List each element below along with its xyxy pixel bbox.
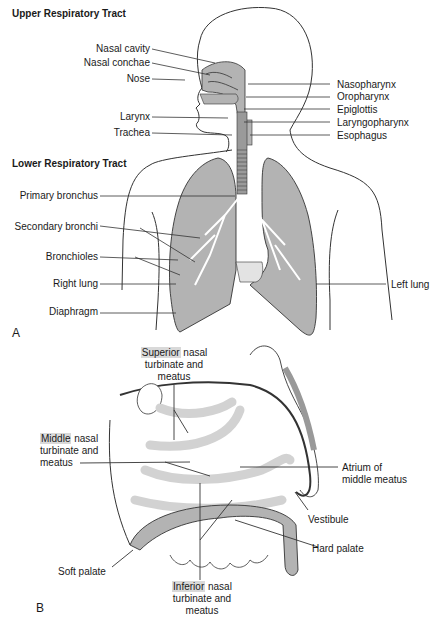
label-middle-turbinate: Middle nasal turbinate and meatus bbox=[40, 433, 98, 469]
inferior-highlight: Inferior bbox=[172, 581, 205, 592]
upper-respiratory-title: Upper Respiratory Tract bbox=[12, 8, 126, 19]
lower-respiratory-title: Lower Respiratory Tract bbox=[12, 158, 126, 169]
right-lung-shape bbox=[169, 158, 236, 332]
label-vestibule: Vestibule bbox=[308, 514, 349, 526]
label-atrium-middle-meatus: Atrium of middle meatus bbox=[342, 462, 407, 486]
label-nose: Nose bbox=[127, 73, 150, 85]
label-bronchioles: Bronchioles bbox=[46, 251, 98, 263]
middle-cavity-left bbox=[109, 420, 130, 545]
diaphragm-shape bbox=[236, 262, 263, 282]
trachea-shape bbox=[237, 112, 247, 194]
label-esophagus: Esophagus bbox=[337, 130, 387, 142]
label-nasal-conchae: Nasal conchae bbox=[84, 57, 150, 69]
label-larynx: Larynx bbox=[120, 111, 150, 123]
label-right-lung: Right lung bbox=[53, 278, 98, 290]
turbinates bbox=[135, 402, 290, 508]
label-soft-palate: Soft palate bbox=[58, 566, 106, 578]
label-secondary-bronchi: Secondary bronchi bbox=[15, 221, 98, 233]
superior-highlight: Superior bbox=[141, 347, 181, 358]
label-epiglottis: Epiglottis bbox=[337, 104, 378, 116]
label-hard-palate: Hard palate bbox=[312, 543, 364, 555]
label-superior-turbinate: Superior nasal turbinate and meatus bbox=[136, 347, 212, 383]
label-nasopharynx: Nasopharynx bbox=[337, 79, 396, 91]
panel-a-letter: A bbox=[12, 326, 20, 340]
label-diaphragm: Diaphragm bbox=[49, 306, 98, 318]
left-lung-shape bbox=[250, 158, 317, 335]
panel-b-letter: B bbox=[36, 601, 44, 615]
label-trachea: Trachea bbox=[114, 127, 150, 139]
label-laryngopharynx: Laryngopharynx bbox=[337, 117, 409, 129]
label-oropharynx: Oropharynx bbox=[337, 91, 389, 103]
label-nasal-cavity: Nasal cavity bbox=[96, 43, 150, 55]
label-primary-bronchus: Primary bronchus bbox=[20, 190, 98, 202]
label-left-lung: Left lung bbox=[391, 279, 429, 291]
teeth bbox=[170, 555, 268, 569]
middle-highlight: Middle bbox=[40, 433, 71, 444]
label-inferior-turbinate: Inferior nasal turbinate and meatus bbox=[164, 581, 240, 617]
